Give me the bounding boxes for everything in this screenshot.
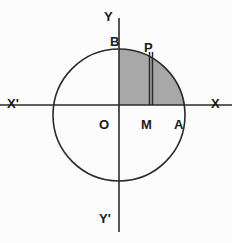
label-point-m: M [141, 118, 152, 131]
label-x-axis-negative: X' [7, 97, 19, 110]
label-y-axis-negative: Y' [99, 212, 111, 225]
label-y-axis-positive: Y [104, 10, 113, 23]
label-point-p: P [144, 41, 153, 54]
label-point-b: B [110, 35, 119, 48]
label-origin: O [99, 118, 109, 131]
geometry-figure: Y B P X' X O M A Y' [0, 0, 232, 243]
label-point-a: A [174, 118, 183, 131]
label-x-axis-positive: X [211, 97, 220, 110]
